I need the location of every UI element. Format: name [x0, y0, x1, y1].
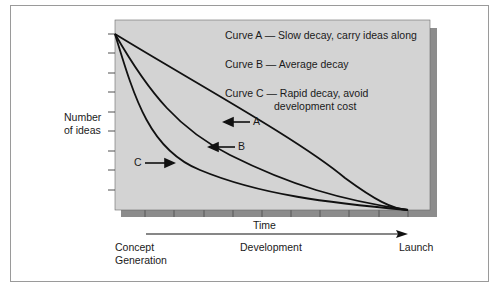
time-arrow — [146, 230, 408, 238]
pointer-label-b: B — [238, 140, 245, 153]
x-axis-band — [121, 210, 437, 217]
y-axis-ticks — [108, 34, 115, 190]
legend-curve-a: Curve A — Slow decay, carry ideas along — [225, 29, 417, 42]
legend-curve-c-line1: Curve C — Rapid decay, avoid — [225, 87, 368, 100]
x-axis-label: Time — [253, 219, 276, 232]
stage-concept-line1: Concept — [115, 241, 154, 254]
plot-area — [115, 20, 430, 210]
stage-concept-line2: Generation — [115, 254, 167, 267]
legend-curve-c-line2: development cost — [274, 100, 356, 113]
y-axis-label-line2: of ideas — [64, 124, 101, 137]
stage-launch: Launch — [399, 241, 433, 254]
y-axis-label-line1: Number — [64, 111, 101, 124]
stage-development: Development — [240, 241, 302, 254]
legend-curve-b: Curve B — Average decay — [225, 58, 349, 71]
pointer-label-a: A — [253, 115, 260, 128]
pointer-label-c: C — [134, 156, 142, 169]
plot-shadow-right — [430, 28, 437, 217]
